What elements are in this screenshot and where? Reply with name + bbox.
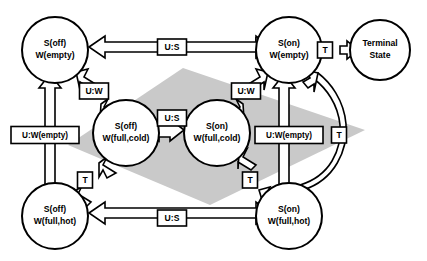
edge-label-t-right-diag: T: [243, 172, 258, 188]
edge-label-uwempty-left: U:W(empty): [11, 127, 79, 144]
edge-label-uwempty-left-text: U:W(empty): [22, 131, 68, 140]
node-on-full-cold[interactable]: S(on) W(full,cold): [184, 100, 250, 166]
node-on-empty[interactable]: S(on) W(empty): [256, 17, 322, 83]
node-off-full-hot[interactable]: S(off) W(full,hot): [22, 183, 88, 249]
node-on-empty-line1: S(on): [278, 38, 300, 48]
edge-label-us-top-text: U:S: [165, 42, 180, 52]
node-on-empty-line2: W(empty): [269, 50, 308, 60]
edge-label-uw-left-text: U:W: [85, 86, 103, 96]
state-diagram: S(off) W(empty) S(on) W(empty) Terminal …: [0, 0, 427, 261]
node-on-full-hot-line1: S(on): [278, 204, 300, 214]
node-off-empty-line1: S(off): [44, 38, 67, 48]
node-terminal-state[interactable]: Terminal State: [350, 20, 410, 80]
edge-label-t-right-diag-text: T: [247, 175, 253, 185]
node-on-full-cold-line2: W(full,cold): [194, 133, 241, 143]
node-off-full-cold-line2: W(full,cold): [103, 133, 150, 143]
node-on-full-hot-line2: W(full,hot): [268, 216, 311, 226]
edge-label-uw-right: U:W: [232, 83, 261, 99]
edge-label-t-terminal-text: T: [322, 45, 328, 55]
edge-label-us-bottom-text: U:S: [165, 213, 180, 223]
node-on-full-hot[interactable]: S(on) W(full,hot): [256, 183, 322, 249]
edge-label-t-right-curve: T: [332, 127, 347, 143]
edge-label-us-bottom: U:S: [158, 210, 187, 226]
edge-label-t-right-curve-text: T: [336, 130, 342, 140]
edge-label-us-top: U:S: [158, 39, 187, 55]
node-off-empty[interactable]: S(off) W(empty): [22, 17, 88, 83]
node-off-empty-line2: W(empty): [35, 50, 74, 60]
edge-label-uwempty-right: U:W(empty): [255, 127, 323, 144]
node-off-full-cold[interactable]: S(off) W(full,cold): [93, 100, 159, 166]
edge-label-t-terminal: T: [318, 42, 333, 58]
edge-label-uw-right-text: U:W: [237, 86, 255, 96]
diagram-canvas: S(off) W(empty) S(on) W(empty) Terminal …: [0, 0, 427, 261]
edge-label-uwempty-right-text: U:W(empty): [266, 131, 312, 140]
node-off-full-hot-line1: S(off): [44, 204, 67, 214]
node-terminal-line2: State: [369, 50, 390, 60]
node-off-full-hot-line2: W(full,hot): [34, 216, 77, 226]
edge-label-t-left-diag: T: [78, 172, 93, 188]
edge-label-uw-left: U:W: [80, 83, 109, 99]
node-terminal-line1: Terminal: [362, 38, 397, 48]
edge-label-us-middle: U:S: [158, 110, 187, 126]
edge-label-us-middle-text: U:S: [165, 113, 180, 123]
edge-label-t-left-diag-text: T: [82, 175, 88, 185]
node-on-full-cold-line1: S(on): [206, 121, 228, 131]
node-off-full-cold-line1: S(off): [115, 121, 138, 131]
